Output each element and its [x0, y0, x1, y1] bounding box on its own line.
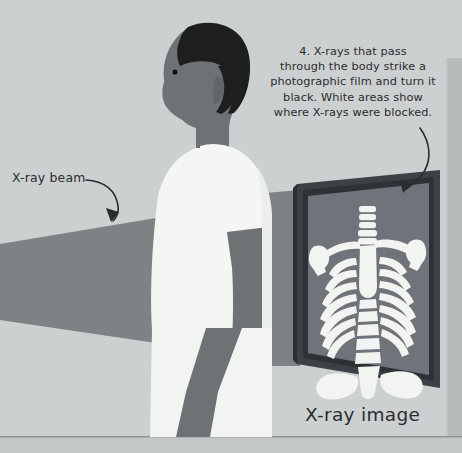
caption-line: black. White areas show — [258, 90, 448, 105]
lumbar-vertebra — [358, 311, 378, 322]
cervical-disc — [359, 206, 376, 212]
caption-line: where X-rays were blocked. — [258, 105, 448, 120]
xray-panel-side-thickness — [293, 184, 297, 364]
cervical-disc — [358, 238, 377, 244]
lumbar-vertebra — [357, 324, 379, 336]
person-eye — [173, 69, 178, 74]
xray-image-label: X-ray image — [305, 404, 420, 425]
caption-line: through the body strike a — [258, 59, 448, 74]
wall-right-panel — [447, 58, 462, 453]
lumbar-vertebra — [359, 299, 377, 309]
lumbar-vertebra — [355, 352, 381, 364]
caption-line: 4. X-rays that pass — [258, 44, 448, 59]
cervical-disc — [359, 222, 376, 228]
floor — [0, 437, 462, 453]
cervical-disc — [358, 230, 377, 236]
cervical-disc — [359, 214, 376, 220]
step-caption: 4. X-rays that pass through the body str… — [258, 44, 448, 120]
sternum — [359, 245, 377, 298]
caption-line: photographic film and turn it — [258, 74, 448, 89]
illustration-canvas: 4. X-rays that pass through the body str… — [0, 0, 462, 453]
lumbar-vertebra — [356, 338, 380, 350]
xray-beam-label: X-ray beam — [12, 170, 85, 185]
